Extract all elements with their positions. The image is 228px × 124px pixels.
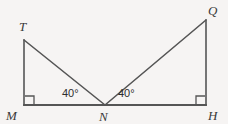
vertex-label-N: N	[98, 109, 109, 124]
right-angle-H-icon	[196, 96, 205, 105]
vertex-label-M: M	[5, 108, 18, 123]
angle-label-TNM: 40°	[62, 87, 79, 99]
angle-label-QNH: 40°	[118, 87, 135, 99]
vertex-label-T: T	[19, 19, 27, 34]
geometry-figure: T Q M N H 40° 40°	[0, 0, 228, 124]
figure-canvas: T Q M N H 40° 40°	[0, 0, 228, 124]
vertex-label-Q: Q	[208, 3, 218, 18]
vertex-label-H: H	[207, 108, 218, 123]
right-angle-M-icon	[25, 96, 34, 105]
